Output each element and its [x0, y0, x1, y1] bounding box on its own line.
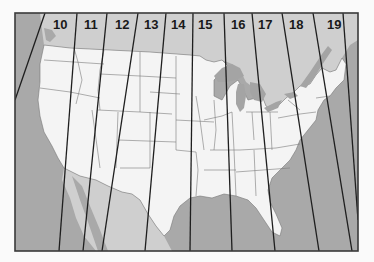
zone-label-13: 13 [144, 17, 158, 32]
zone-label-10: 10 [53, 17, 67, 32]
zone-label-19: 19 [327, 17, 341, 32]
zone-label-15: 15 [198, 17, 212, 32]
zone-label-17: 17 [258, 17, 272, 32]
zone-label-12: 12 [115, 17, 129, 32]
zone-label-16: 16 [231, 17, 245, 32]
zone-labels: 10 11 12 13 14 15 16 17 18 19 [53, 17, 341, 32]
zone-label-11: 11 [84, 17, 98, 32]
us-zone-map: 10 11 12 13 14 15 16 17 18 19 [0, 0, 374, 262]
zone-label-18: 18 [289, 17, 303, 32]
zone-label-14: 14 [171, 17, 186, 32]
